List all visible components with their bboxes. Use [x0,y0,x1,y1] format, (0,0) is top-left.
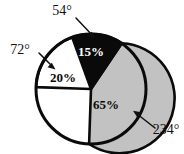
slice-label-gray: 65% [93,97,119,112]
pie-chart-figure: 15% 20% 65% 54° 72° 234° [0,0,184,154]
angle-label-72: 72° [10,42,30,57]
slice-label-black: 15% [78,44,104,59]
slice-label-white: 20% [50,70,76,85]
angle-label-234: 234° [153,122,180,137]
pie-chart-svg: 15% 20% 65% 54° 72° 234° [0,0,184,154]
angle-label-54: 54° [52,3,72,18]
